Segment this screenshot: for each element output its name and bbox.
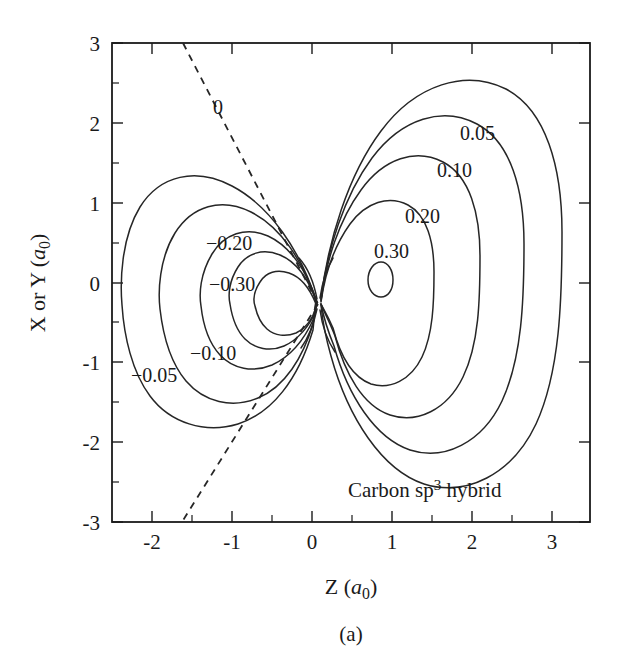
contour-neg-0-30 [229, 252, 317, 349]
y-axis-title-group: X or Y (a0) [25, 234, 53, 333]
contour-label-0-30: 0.30 [374, 240, 409, 262]
contour-label-neg-0-10: −0.10 [190, 342, 236, 364]
y-tick-label: 0 [90, 272, 101, 296]
x-tick-label: -2 [143, 530, 161, 554]
x-tick-label: 1 [387, 530, 398, 554]
contour-figure: 0 0.05 0.10 0.20 0.30 −0.20 −0.30 −0.10 … [0, 0, 619, 657]
contour-label-0-05: 0.05 [460, 122, 495, 144]
x-tick-label: 3 [547, 530, 558, 554]
y-axis-title-unit-close: ) [25, 234, 50, 241]
annotation-suffix: hybrid [441, 478, 502, 502]
contour-label-group: 0 0.05 0.10 0.20 0.30 −0.20 −0.30 −0.10 … [131, 96, 495, 386]
x-axis-title: Z (a0) [325, 574, 378, 602]
x-axis-title-unit-sub: 0 [362, 585, 370, 602]
y-tick-label: -1 [83, 351, 101, 375]
x-tick-label: 2 [467, 530, 478, 554]
figure-caption: (a) [339, 622, 362, 646]
x-axis-title-unit-close: ) [370, 574, 377, 599]
contour-neg-0-05 [121, 176, 316, 428]
x-axis-title-group: Z (a0) [325, 574, 378, 602]
contour-pos-0-10 [321, 116, 524, 453]
y-axis-title-unit-open: ( [25, 260, 50, 273]
y-axis-title-unit-sub: 0 [36, 241, 53, 249]
x-tick-label: 0 [307, 530, 318, 554]
y-tick-label: -3 [83, 511, 101, 535]
contour-label-neg-0-30: −0.30 [209, 273, 255, 295]
contour-label-zero: 0 [213, 96, 223, 118]
contour-label-0-10: 0.10 [437, 159, 472, 181]
y-axis-ticks [112, 43, 590, 522]
contour-pos-0-05 [321, 80, 562, 487]
y-tick-label: 2 [90, 112, 101, 136]
x-axis-title-unit-symbol: a [351, 574, 362, 599]
y-axis-title: X or Y (a0) [25, 234, 53, 333]
x-axis-title-symbol: Z [325, 574, 338, 599]
x-tick-label: -1 [223, 530, 241, 554]
negative-lobe-contours [121, 176, 317, 428]
x-axis-tick-labels: -2 -1 0 1 2 3 [143, 530, 557, 554]
caption-group: (a) [339, 622, 362, 646]
positive-lobe-contours [320, 80, 562, 487]
annotation-superscript: 3 [434, 477, 442, 493]
plot-frame [112, 43, 590, 522]
y-tick-label: 3 [90, 32, 101, 56]
y-axis-tick-labels: 3 2 1 0 -1 -2 -3 [83, 32, 101, 535]
y-tick-label: 1 [90, 192, 101, 216]
contour-label-neg-0-20: −0.20 [206, 232, 252, 254]
annotation-prefix: Carbon sp [348, 478, 434, 502]
contour-label-neg-0-05: −0.05 [131, 364, 177, 386]
contour-label-0-20: 0.20 [405, 205, 440, 227]
nodal-line-upper [183, 43, 318, 304]
annotation-carbon-sp3-hybrid: Carbon sp3 hybrid [348, 477, 502, 502]
contour-pos-inner-oval [368, 262, 393, 297]
y-axis-title-unit-symbol: a [25, 249, 50, 260]
annotation-group: Carbon sp3 hybrid [348, 477, 502, 502]
y-tick-label: -2 [83, 431, 101, 455]
y-axis-title-symbol: X or Y [25, 272, 50, 332]
x-axis-title-unit-open: ( [338, 574, 351, 599]
contour-plot-svg: 0 0.05 0.10 0.20 0.30 −0.20 −0.30 −0.10 … [0, 0, 619, 657]
